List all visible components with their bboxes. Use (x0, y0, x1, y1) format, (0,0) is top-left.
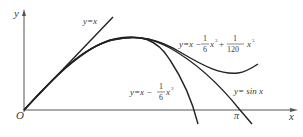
curve-cubic (24, 37, 198, 124)
curve-sine (24, 37, 252, 124)
quintic-lhs: y=x − (178, 39, 201, 49)
y-axis-label: y (13, 7, 19, 19)
quintic-frac1-num: 1 (203, 34, 207, 43)
quintic-exp1: 3 (215, 38, 218, 43)
quintic-frac2-num: 1 (233, 34, 237, 43)
quintic-mid: x (209, 39, 214, 49)
quintic-plus: + (219, 39, 224, 49)
cubic-frac-num: 1 (159, 82, 163, 91)
label-y-equals-x: y=x (82, 16, 97, 26)
quintic-frac1-den: 6 (203, 45, 207, 54)
quintic-frac2-den: 120 (227, 45, 239, 54)
cubic-lhs: y=x − (129, 87, 152, 97)
y-axis-arrow-icon (22, 9, 26, 16)
quintic-tail: x (246, 39, 251, 49)
cubic-exp: 3 (171, 86, 174, 91)
origin-label: O (16, 109, 24, 121)
axes: y x O π (13, 7, 298, 122)
quintic-exp2: 5 (252, 38, 255, 43)
label-sine: y= sin x (233, 86, 263, 96)
cubic-rhs: x (165, 87, 170, 97)
label-quintic: y=x − 1 6 x 3 + 1 120 x 5 (178, 34, 255, 54)
label-cubic: y=x − 1 6 x 3 (129, 82, 174, 102)
x-axis-label: x (288, 110, 294, 122)
taylor-series-diagram: y x O π y=x y=x − 1 6 x 3 + 1 120 x 5 y=… (0, 0, 303, 137)
cubic-frac-den: 6 (159, 93, 163, 102)
pi-label: π (234, 110, 240, 121)
